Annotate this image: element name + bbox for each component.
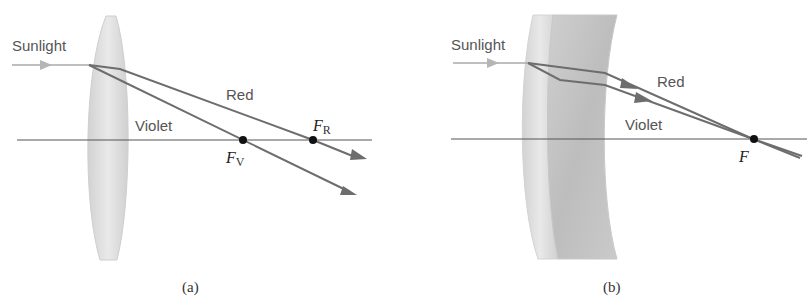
red-arrow-icon-b <box>620 78 638 89</box>
sunlight-arrow-icon <box>40 60 52 70</box>
violet-label: Violet <box>135 117 173 134</box>
panel-a: Sunlight Red Violet FR FV (a) <box>12 16 372 296</box>
red-label-b: Red <box>657 73 685 90</box>
focus-violet-label: FV <box>225 149 245 169</box>
flint-glass-element <box>548 15 617 259</box>
sunlight-arrow-icon-b <box>487 58 499 68</box>
sunlight-label-b: Sunlight <box>451 36 506 53</box>
caption-b: (b) <box>603 279 621 296</box>
focus-red-label: FR <box>312 117 331 137</box>
violet-label-b: Violet <box>625 116 663 133</box>
red-label: Red <box>226 86 254 103</box>
focal-point-violet <box>239 136 247 144</box>
sunlight-label: Sunlight <box>12 37 67 54</box>
converging-lens <box>88 16 128 260</box>
focal-point <box>750 135 758 143</box>
red-arrow-icon <box>350 149 367 160</box>
caption-a: (a) <box>182 279 199 296</box>
focal-point-red <box>309 136 317 144</box>
chromatic-aberration-diagram: Sunlight Red Violet FR FV (a) Sunlight R… <box>0 0 809 301</box>
focus-label: F <box>738 148 749 165</box>
panel-b: Sunlight Red Violet F (b) <box>451 15 807 296</box>
